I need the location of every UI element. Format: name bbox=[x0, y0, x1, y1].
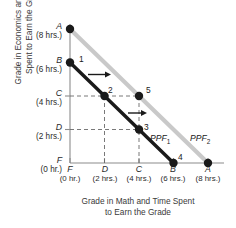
ppf-chart: Grade in Economics and Time Spent to Ear… bbox=[0, 0, 236, 228]
ppf2-label: PPF2 bbox=[190, 133, 210, 145]
point-label-2: 2 bbox=[108, 85, 113, 95]
x-axis-label-line1: Grade in Math and Time Spent bbox=[46, 196, 230, 207]
ppf1-label: PPF1 bbox=[150, 133, 170, 145]
point-5 bbox=[135, 92, 143, 100]
point-4 bbox=[169, 159, 177, 167]
x-axis-label-line2: to Earn the Grade bbox=[46, 207, 230, 218]
ppf1-label-sub: 1 bbox=[167, 138, 171, 145]
point-1 bbox=[66, 58, 74, 66]
ppf2-label-text: PPF bbox=[190, 133, 207, 143]
point-a-ppf2 bbox=[66, 25, 74, 33]
x-axis-label: Grade in Math and Time Spent to Earn the… bbox=[46, 196, 230, 217]
ppf2-label-sub: 2 bbox=[207, 138, 211, 145]
arrow-2 bbox=[128, 110, 147, 116]
point-a-x-ppf2 bbox=[204, 159, 212, 167]
point-label-3: 3 bbox=[144, 122, 149, 132]
plot-area bbox=[0, 0, 236, 228]
arrow-1 bbox=[88, 72, 111, 78]
point-label-1: 1 bbox=[79, 54, 84, 64]
ppf1-label-text: PPF bbox=[150, 133, 167, 143]
point-label-5: 5 bbox=[146, 85, 151, 95]
point-label-4: 4 bbox=[178, 152, 183, 162]
guide-lines bbox=[70, 96, 139, 163]
point-3 bbox=[135, 125, 143, 133]
